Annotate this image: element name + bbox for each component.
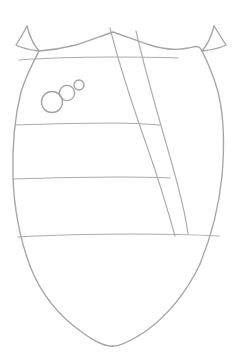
shield-field: [13, 26, 224, 346]
drawing-canvas: Heraldic shield line drawing: [0, 0, 241, 359]
shield-illustration: Heraldic shield line drawing: [0, 0, 241, 359]
